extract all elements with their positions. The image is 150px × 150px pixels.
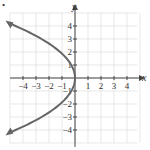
svg-text:2: 2 — [68, 47, 73, 57]
y-axis-label: y — [71, 1, 77, 12]
svg-text:−4: −4 — [62, 125, 72, 135]
item-bullet: • — [2, 0, 5, 10]
svg-text:4: 4 — [68, 21, 73, 31]
svg-text:3: 3 — [112, 81, 117, 91]
svg-text:−2: −2 — [44, 81, 54, 91]
svg-text:4: 4 — [125, 81, 130, 91]
svg-text:−3: −3 — [31, 81, 41, 91]
svg-text:2: 2 — [99, 81, 104, 91]
svg-text:−3: −3 — [62, 112, 72, 122]
svg-text:−4: −4 — [18, 81, 28, 91]
svg-text:1: 1 — [86, 81, 91, 91]
axes — [10, 4, 145, 147]
x-axis-label: x — [141, 72, 147, 83]
graph: −4−3−2−112344321−1−2−3−4 • x y — [0, 0, 150, 150]
svg-text:3: 3 — [68, 34, 73, 44]
